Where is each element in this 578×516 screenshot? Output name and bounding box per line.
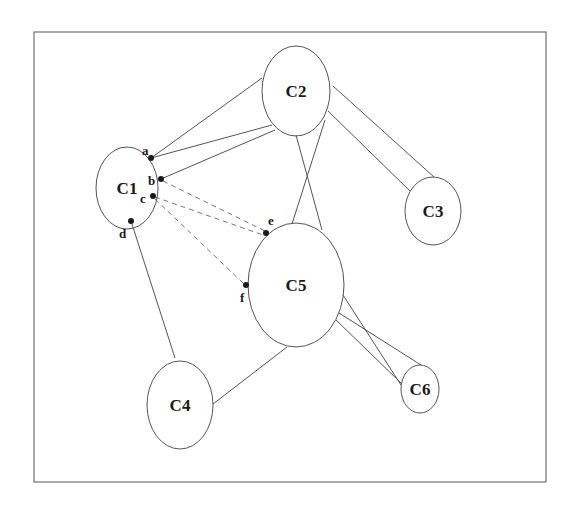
edge <box>131 221 175 358</box>
edge <box>151 125 272 158</box>
dashed-edge <box>163 181 265 231</box>
edge <box>333 86 434 177</box>
edge <box>343 295 401 385</box>
node-label: C2 <box>286 82 307 101</box>
node-label: C4 <box>170 396 191 415</box>
point-e: e <box>263 213 274 236</box>
nodes-layer: C1C2C3C4C5C6 <box>96 46 461 449</box>
node-c4: C4 <box>147 361 213 449</box>
point-dot <box>128 218 134 224</box>
point-c: c <box>140 191 156 206</box>
point-b: b <box>148 173 164 188</box>
node-c6: C6 <box>401 365 439 413</box>
point-label: c <box>140 191 146 206</box>
edge <box>328 111 410 191</box>
point-dot <box>243 282 249 288</box>
point-dot <box>263 230 269 236</box>
edges-layer <box>131 78 434 404</box>
edge <box>213 347 287 404</box>
node-label: C3 <box>423 202 444 221</box>
node-c3: C3 <box>405 177 461 245</box>
point-d: d <box>119 218 134 241</box>
edge <box>161 130 275 179</box>
point-label: a <box>142 143 149 158</box>
point-label: b <box>148 173 155 188</box>
point-dot <box>150 193 156 199</box>
node-label: C6 <box>410 380 431 399</box>
edge <box>296 135 322 230</box>
point-dot <box>148 155 154 161</box>
node-label: C1 <box>117 179 138 198</box>
node-label: C5 <box>286 276 307 295</box>
point-dot <box>158 176 164 182</box>
node-c2: C2 <box>262 46 330 136</box>
dashed-edge <box>155 199 244 284</box>
point-f: f <box>240 282 249 305</box>
node-c5: C5 <box>248 223 344 347</box>
point-label: f <box>240 290 245 305</box>
cluster-diagram: C1C2C3C4C5C6 abcdef <box>0 0 578 516</box>
dashed-edge <box>155 197 263 235</box>
point-label: d <box>119 226 127 241</box>
edge <box>151 78 262 158</box>
point-label: e <box>268 213 274 228</box>
edge <box>336 320 402 384</box>
edge <box>339 313 421 365</box>
